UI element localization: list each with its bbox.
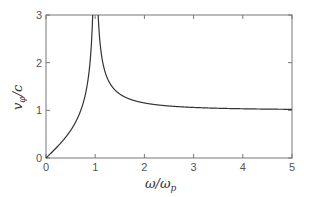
curve-above-plasma-frequency [98,15,292,109]
y-tick-label: 1 [36,104,42,116]
phase-velocity-chart: 0123450123 ω/ωp vφ/c [0,0,310,197]
curve-below-plasma-frequency [46,15,93,158]
y-tick-label: 3 [36,9,42,21]
x-axis-label: ω/ωp [145,176,177,193]
y-tick-label: 2 [36,57,42,69]
x-tick-label: 5 [289,161,295,173]
ticks: 0123450123 [36,9,295,173]
plot-frame [46,15,292,158]
x-tick-label: 3 [191,161,197,173]
x-tick-label: 0 [43,161,49,173]
y-tick-label: 0 [36,152,42,164]
x-tick-label: 4 [240,161,246,173]
x-tick-label: 2 [141,161,147,173]
curves [46,15,292,158]
x-tick-label: 1 [92,161,98,173]
y-axis-label: vφ/c [10,84,27,110]
axes [46,15,292,158]
